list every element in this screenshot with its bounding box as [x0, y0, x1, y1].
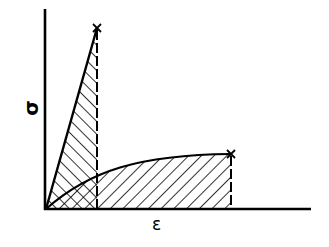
y-axis-label: σ	[19, 100, 43, 116]
x-axis-label: ε	[152, 214, 161, 234]
stress-strain-diagram	[0, 0, 329, 247]
